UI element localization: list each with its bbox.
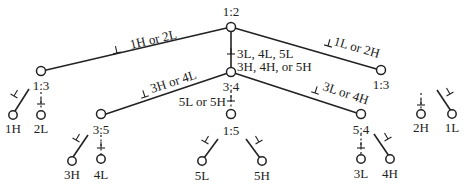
perp-icon bbox=[252, 134, 262, 144]
leaf-label-2H: 2H bbox=[413, 120, 429, 135]
leaf-node bbox=[448, 110, 456, 118]
node-label-root: 1:2 bbox=[223, 4, 240, 19]
node-right bbox=[377, 66, 386, 75]
edge-left-1H bbox=[15, 89, 29, 111]
node-center-right bbox=[357, 110, 366, 119]
leaf-label-1H: 1H bbox=[5, 121, 21, 136]
leaf-label-5H: 5H bbox=[254, 168, 270, 183]
node-label-left: 1:3 bbox=[33, 78, 50, 93]
leaf-label-5L: 5L bbox=[195, 168, 210, 183]
leaf-label-4L: 4L bbox=[94, 167, 109, 182]
node-label-center-left: 3:5 bbox=[93, 122, 110, 137]
perp-icon bbox=[73, 132, 83, 142]
decision-tree-diagram: 1:2 1:3 3:4 1:3 3:5 1:5 5:4 1H or 2L 1L … bbox=[0, 0, 464, 186]
perp-icon bbox=[11, 88, 21, 98]
leaf-node bbox=[258, 157, 266, 165]
perp-icon bbox=[357, 142, 365, 148]
node-center bbox=[227, 68, 236, 77]
leaf-label-3L: 3L bbox=[354, 166, 369, 181]
perp-icon bbox=[202, 134, 212, 144]
perp-icon bbox=[443, 86, 453, 96]
leaf-node bbox=[357, 155, 365, 163]
leaf-node bbox=[37, 111, 45, 119]
leaf-node bbox=[68, 157, 76, 165]
node-label-center: 3:4 bbox=[223, 79, 240, 94]
edge-labels: 1H or 2L 1L or 2H 3L, 4L, 5L 3H, 4H, or … bbox=[128, 27, 381, 109]
leaf-node bbox=[9, 111, 17, 119]
perp-icon bbox=[381, 131, 391, 141]
edge-15-5L bbox=[204, 139, 218, 158]
perp-icon bbox=[227, 48, 235, 54]
leaf-label-3H: 3H bbox=[64, 167, 80, 182]
leaf-node bbox=[97, 155, 105, 163]
leaf-node bbox=[417, 110, 425, 118]
edge-label-root-right: 1L or 2H bbox=[332, 33, 381, 60]
perp-icon bbox=[311, 85, 321, 94]
perp-icon bbox=[139, 89, 149, 98]
perp-icon bbox=[227, 95, 235, 101]
node-label-center-right: 5:4 bbox=[353, 122, 370, 137]
leaf-label-4H: 4H bbox=[382, 166, 398, 181]
perp-icon bbox=[37, 98, 45, 104]
node-labels: 1:2 1:3 3:4 1:3 3:5 1:5 5:4 bbox=[33, 4, 390, 138]
node-left bbox=[37, 67, 46, 76]
leaf-node bbox=[386, 155, 394, 163]
leaf-label-1L: 1L bbox=[445, 120, 460, 135]
perp-icon bbox=[97, 142, 105, 148]
node-root bbox=[227, 23, 236, 32]
node-label-center-mid: 1:5 bbox=[223, 123, 240, 138]
node-center-left bbox=[97, 110, 106, 119]
node-label-right: 1:3 bbox=[373, 77, 390, 92]
edge-label-root-left: 1H or 2L bbox=[128, 27, 178, 52]
edge-35-3H bbox=[73, 135, 88, 157]
edge-15-5H bbox=[246, 139, 260, 158]
leaf-node bbox=[198, 157, 206, 165]
edge-label-root-center-2: 3H, 4H, or 5H bbox=[237, 59, 312, 74]
perp-icon bbox=[112, 45, 121, 54]
perp-icon bbox=[417, 99, 425, 105]
leaf-label-2L: 2L bbox=[34, 121, 49, 136]
edge-label-center-mid: 5L or 5H bbox=[179, 94, 226, 109]
node-center-mid bbox=[227, 110, 236, 119]
